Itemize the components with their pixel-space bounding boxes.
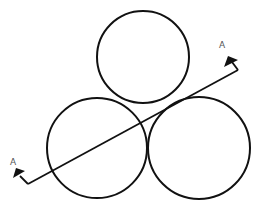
bottom-right-circle — [148, 97, 250, 199]
left-arrowhead-icon — [13, 168, 25, 178]
right-arrow-stem — [232, 62, 238, 70]
top-circle — [97, 11, 189, 103]
left-arrow-stem — [20, 176, 28, 184]
section-line — [28, 70, 238, 184]
diagram-canvas: A A — [0, 0, 265, 210]
bottom-left-circle — [47, 98, 147, 198]
right-arrowhead-icon — [224, 56, 238, 67]
section-label-right: A — [219, 40, 226, 50]
section-label-left: A — [10, 157, 17, 167]
